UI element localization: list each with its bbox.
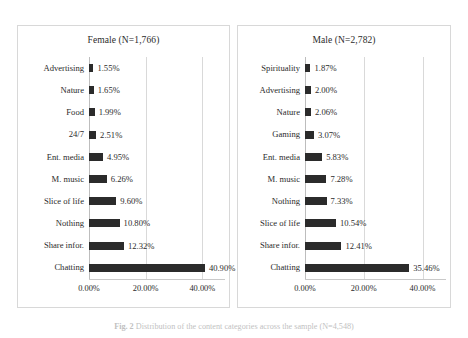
bar-value-label: 2.06% (311, 107, 337, 117)
bar-value-label: 3.07% (314, 130, 340, 140)
bar (89, 175, 107, 183)
bar-value-label: 10.80% (120, 218, 151, 228)
axis-line-male (305, 279, 446, 280)
category-label: Share infor. (238, 241, 305, 250)
panel-title-female: Female (N=1,766) (18, 35, 229, 45)
category-label: Advertising (18, 64, 89, 73)
bar-rows-male: Spirituality1.87%Advertising2.00%Nature2… (238, 57, 450, 279)
bar-row: Ent. media5.83% (238, 146, 450, 168)
bar (89, 153, 103, 161)
bar-value-label: 40.90% (205, 263, 236, 273)
bar-value-label: 35.46% (409, 263, 440, 273)
bar-value-label: 7.33% (327, 196, 353, 206)
bar-value-label: 4.95% (103, 152, 129, 162)
category-label: Ent. media (18, 153, 89, 162)
bar-rows-female: Advertising1.55%Nature1.65%Food1.99%24/7… (18, 57, 229, 279)
category-label: Chatting (18, 263, 89, 272)
category-label: Ent. media (238, 153, 305, 162)
bar-row: M. music6.26% (18, 168, 229, 190)
bar-zone: 2.00% (305, 79, 450, 101)
bar-row: Advertising2.00% (238, 79, 450, 101)
bar-value-label: 9.60% (116, 196, 142, 206)
bar (89, 219, 120, 227)
x-axis-male: 0.00%20.00%40.00% (238, 279, 450, 303)
chart-panels: Female (N=1,766) Advertising1.55%Nature1… (0, 0, 468, 312)
category-label: Spirituality (238, 64, 305, 73)
x-tick-label: 40.00% (410, 284, 436, 293)
bar-value-label: 12.41% (341, 241, 372, 251)
bar (305, 131, 314, 139)
bar-value-label: 1.87% (310, 63, 336, 73)
bar-zone: 1.65% (89, 79, 229, 101)
category-label: M. music (18, 175, 89, 184)
bar-zone: 1.87% (305, 57, 450, 79)
category-label: Advertising (238, 86, 305, 95)
bar-row: Share infor.12.32% (18, 235, 229, 257)
chart-panel-male: Male (N=2,782) Spirituality1.87%Advertis… (237, 25, 451, 308)
category-label: M. music (238, 175, 305, 184)
bar-row: Nature1.65% (18, 79, 229, 101)
x-tick-label: 20.00% (351, 284, 377, 293)
bar-value-label: 10.54% (336, 218, 367, 228)
bar-row: Slice of life10.54% (238, 212, 450, 234)
bar-value-label: 1.65% (94, 85, 120, 95)
bar-zone: 7.28% (305, 168, 450, 190)
bar (305, 264, 409, 272)
bar-value-label: 7.28% (326, 174, 352, 184)
bar-row: Nothing10.80% (18, 212, 229, 234)
bar (305, 219, 336, 227)
bar-zone: 6.26% (89, 168, 229, 190)
bar-row: Chatting35.46% (238, 257, 450, 279)
bar-row: Advertising1.55% (18, 57, 229, 79)
bar-zone: 10.80% (89, 212, 229, 234)
bar-zone: 3.07% (305, 124, 450, 146)
bar-zone: 5.83% (305, 146, 450, 168)
bar-value-label: 2.00% (311, 85, 337, 95)
bar-zone: 10.54% (305, 212, 450, 234)
bar-row: Share infor.12.41% (238, 235, 450, 257)
category-label: Chatting (238, 263, 305, 272)
bar-zone: 2.06% (305, 101, 450, 123)
bar (305, 242, 341, 250)
bar-zone: 4.95% (89, 146, 229, 168)
bar-row: Food1.99% (18, 101, 229, 123)
bar-zone: 40.90% (89, 257, 229, 279)
category-label: Share infor. (18, 241, 89, 250)
plot-area-female: Advertising1.55%Nature1.65%Food1.99%24/7… (18, 57, 229, 307)
category-label: Slice of life (18, 197, 89, 206)
bar (89, 197, 116, 205)
bar (89, 131, 96, 139)
bar (305, 175, 326, 183)
bar-zone: 35.46% (305, 257, 450, 279)
category-label: Nature (18, 86, 89, 95)
bar (89, 264, 205, 272)
bar-row: Ent. media4.95% (18, 146, 229, 168)
bar-row: Nature2.06% (238, 101, 450, 123)
category-label: Food (18, 108, 89, 117)
x-tick-label: 0.00% (294, 284, 316, 293)
category-label: Nature (238, 108, 305, 117)
bar (305, 197, 327, 205)
bar-row: M. music7.28% (238, 168, 450, 190)
bar-row: Spirituality1.87% (238, 57, 450, 79)
figure-caption-label: Fig. 2 (114, 322, 134, 331)
bar-row: Chatting40.90% (18, 257, 229, 279)
bar-value-label: 2.51% (96, 130, 122, 140)
bar-zone: 12.41% (305, 235, 450, 257)
x-tick-label: 0.00% (78, 284, 100, 293)
x-tick-label: 40.00% (189, 284, 215, 293)
panel-title-male: Male (N=2,782) (238, 35, 450, 45)
bar-row: Slice of life9.60% (18, 190, 229, 212)
bar-row: Nothing7.33% (238, 190, 450, 212)
bar-zone: 2.51% (89, 124, 229, 146)
bar (305, 153, 322, 161)
bar-zone: 9.60% (89, 190, 229, 212)
bar-value-label: 1.99% (95, 107, 121, 117)
bar-value-label: 1.55% (93, 63, 119, 73)
bar (89, 242, 124, 250)
axis-line-female (89, 279, 225, 280)
category-label: Slice of life (238, 219, 305, 228)
category-label: Nothing (238, 197, 305, 206)
bar-zone: 12.32% (89, 235, 229, 257)
x-tick-label: 20.00% (133, 284, 159, 293)
